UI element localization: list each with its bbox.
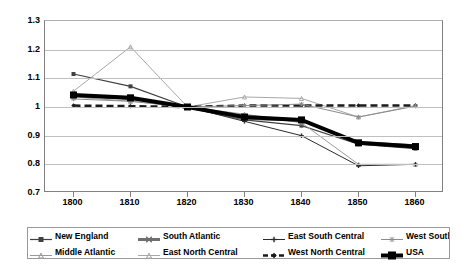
x-tick-label: 1860 — [404, 197, 424, 207]
data-point — [299, 102, 304, 107]
gridline — [45, 107, 442, 108]
x-tick-label: 1820 — [176, 197, 196, 207]
legend-label: West North Central — [288, 247, 365, 257]
legend-label: New England — [55, 231, 108, 241]
y-tick-label: 1.1 — [2, 72, 40, 82]
legend-label: Middle Atlantic — [55, 247, 115, 257]
legend-label: East North Central — [163, 247, 238, 257]
x-tick-mark — [73, 192, 74, 197]
legend-label: USA — [406, 247, 424, 257]
legend-swatch-icon — [381, 231, 403, 242]
data-point — [70, 91, 77, 98]
legend-item-west-south-central[interactable]: West South Central — [381, 229, 449, 244]
x-tick-label: 1800 — [62, 197, 82, 207]
x-tick-mark — [358, 192, 359, 197]
chart-container: 1.31.21.110.90.80.7 18001810182018301840… — [0, 0, 470, 269]
gridline — [45, 50, 442, 51]
data-point — [129, 84, 133, 88]
data-point — [72, 72, 76, 76]
legend-item-middle-atlantic[interactable]: Middle Atlantic — [30, 245, 138, 260]
x-tick-mark — [415, 192, 416, 197]
data-point — [298, 116, 305, 123]
legend-swatch-icon — [263, 231, 285, 242]
plot-area — [44, 20, 443, 192]
data-point — [412, 143, 419, 150]
y-tick-label: 1 — [2, 101, 40, 111]
y-tick-label: 0.7 — [2, 187, 40, 197]
legend-swatch-icon — [138, 247, 160, 258]
x-tick-mark — [244, 192, 245, 197]
y-axis: 1.31.21.110.90.80.7 — [0, 0, 40, 212]
legend-item-usa[interactable]: USA — [381, 245, 449, 260]
legend-item-new-england[interactable]: New England — [30, 229, 138, 244]
data-point — [356, 115, 361, 120]
legend-swatch-icon — [30, 231, 52, 242]
legend-swatch-icon — [138, 231, 160, 242]
y-tick-label: 1.2 — [2, 44, 40, 54]
legend-label: South Atlantic — [163, 231, 220, 241]
x-tick-label: 1850 — [347, 197, 367, 207]
legend-swatch-icon — [30, 247, 52, 258]
legend-label: West South Central — [406, 231, 449, 241]
data-point — [241, 114, 248, 121]
data-point — [355, 139, 362, 146]
legend-swatch-icon — [263, 247, 285, 258]
x-tick-label: 1830 — [233, 197, 253, 207]
gridline — [45, 136, 442, 137]
legend-item-east-south-central[interactable]: East South Central — [263, 229, 381, 244]
legend-label: East South Central — [288, 231, 364, 241]
legend-item-east-north-central[interactable]: East North Central — [138, 245, 263, 260]
x-tick-label: 1810 — [119, 197, 139, 207]
chart-legend: New EnglandMiddle AtlanticSouth Atlantic… — [27, 227, 450, 259]
x-tick-mark — [301, 192, 302, 197]
x-tick-label: 1840 — [290, 197, 310, 207]
y-tick-label: 1.3 — [2, 15, 40, 25]
gridline — [45, 164, 442, 165]
legend-item-south-atlantic[interactable]: South Atlantic — [138, 229, 263, 244]
legend-item-west-north-central[interactable]: West North Central — [263, 245, 381, 260]
x-tick-mark — [187, 192, 188, 197]
data-point — [127, 94, 134, 101]
legend-swatch-icon — [381, 247, 403, 258]
x-axis: 1800181018201830184018501860 — [44, 197, 443, 213]
y-tick-label: 0.9 — [2, 130, 40, 140]
y-tick-label: 0.8 — [2, 158, 40, 168]
gridline — [45, 78, 442, 79]
x-tick-mark — [130, 192, 131, 197]
